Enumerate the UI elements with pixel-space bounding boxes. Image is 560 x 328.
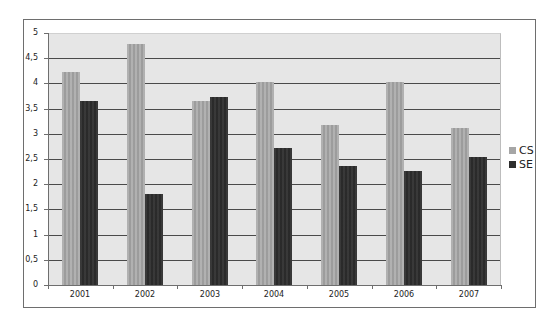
y-tick: [44, 159, 48, 160]
x-tick: [242, 285, 243, 289]
y-tick: [44, 83, 48, 84]
x-tick-label: 2001: [60, 290, 100, 299]
y-tick: [44, 134, 48, 135]
legend-swatch-se-icon: [509, 161, 516, 168]
y-tick: [44, 235, 48, 236]
y-axis: [48, 33, 49, 286]
bar-se-2004: [274, 148, 292, 285]
gridline: [48, 109, 500, 110]
legend-item-se: SE: [509, 157, 534, 171]
bar-cs-2002: [127, 44, 145, 285]
x-tick: [177, 285, 178, 289]
bar-se-2005: [339, 166, 357, 285]
bar-cs-2001: [62, 72, 80, 285]
x-tick: [307, 285, 308, 289]
x-tick-label: 2003: [190, 290, 230, 299]
y-tick-label: 3,5: [25, 105, 38, 113]
legend-swatch-cs-icon: [509, 147, 516, 154]
y-tick-label: 4: [33, 79, 38, 87]
bar-se-2006: [404, 171, 422, 285]
y-tick: [44, 184, 48, 185]
x-tick-label: 2007: [449, 290, 489, 299]
y-tick: [44, 33, 48, 34]
x-tick-label: 2002: [125, 290, 165, 299]
legend-label-cs: CS: [519, 144, 534, 157]
y-tick: [44, 209, 48, 210]
y-tick-label: 1,5: [25, 205, 38, 213]
y-tick-label: 5: [33, 29, 38, 37]
x-tick-label: 2005: [319, 290, 359, 299]
bar-se-2007: [469, 157, 487, 285]
bar-cs-2006: [386, 82, 404, 285]
bar-cs-2004: [256, 82, 274, 285]
gridline: [48, 83, 500, 84]
y-tick-label: 2: [33, 180, 38, 188]
y-tick-label: 0: [33, 281, 38, 289]
gridline: [48, 58, 500, 59]
x-tick: [48, 285, 49, 289]
bar-cs-2007: [451, 128, 469, 285]
y-tick: [44, 109, 48, 110]
y-tick-label: 0,5: [25, 256, 38, 264]
bar-se-2001: [80, 101, 98, 285]
bar-se-2003: [210, 97, 228, 285]
y-tick-label: 4,5: [25, 54, 38, 62]
x-axis: [48, 285, 501, 286]
legend-label-se: SE: [519, 158, 533, 171]
x-tick-label: 2004: [254, 290, 294, 299]
bar-cs-2003: [192, 101, 210, 285]
x-tick: [436, 285, 437, 289]
y-tick: [44, 58, 48, 59]
x-tick: [372, 285, 373, 289]
bar-cs-2005: [321, 125, 339, 285]
y-tick: [44, 260, 48, 261]
bar-se-2002: [145, 194, 163, 285]
y-tick-label: 1: [33, 231, 38, 239]
x-tick: [113, 285, 114, 289]
x-tick: [501, 285, 502, 289]
gridline: [48, 134, 500, 135]
legend-item-cs: CS: [509, 143, 534, 157]
y-tick-label: 3: [33, 130, 38, 138]
legend: CS SE: [509, 143, 534, 171]
y-tick-label: 2,5: [25, 155, 38, 163]
x-tick-label: 2006: [384, 290, 424, 299]
